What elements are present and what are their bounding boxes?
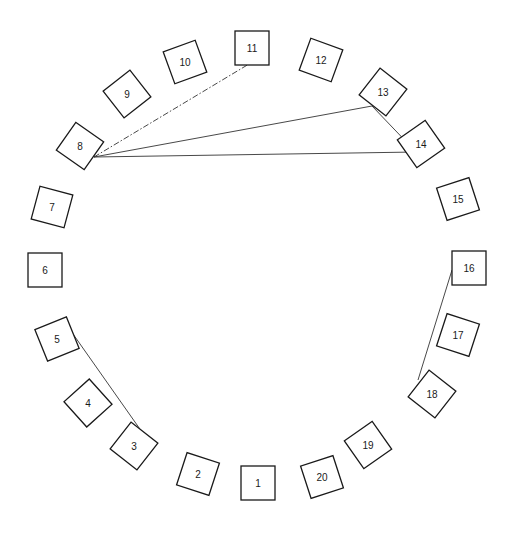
seat-box-10: 10 xyxy=(163,40,207,84)
seat-number-label: 13 xyxy=(377,87,389,98)
seat-box-19: 19 xyxy=(344,421,391,468)
seat-nodes: 1234567891011121314151617181920 xyxy=(28,31,486,500)
seat-box-15: 15 xyxy=(437,178,480,221)
seat-number-label: 9 xyxy=(124,89,130,100)
sociogram-diagram: 1234567891011121314151617181920 xyxy=(0,0,519,534)
seat-box-9: 9 xyxy=(103,70,151,118)
seat-box-7: 7 xyxy=(31,186,73,228)
seat-box-1: 1 xyxy=(241,466,275,500)
seat-number-label: 18 xyxy=(426,389,438,400)
seat-box-17: 17 xyxy=(437,314,480,357)
seat-number-label: 7 xyxy=(49,202,55,213)
seat-box-5: 5 xyxy=(35,317,79,361)
seat-number-label: 16 xyxy=(463,263,475,274)
seat-number-label: 12 xyxy=(315,55,327,66)
seat-box-3: 3 xyxy=(110,422,158,470)
seat-number-label: 15 xyxy=(452,194,464,205)
seat-box-11: 11 xyxy=(235,31,269,65)
seat-number-label: 1 xyxy=(255,478,261,489)
seat-number-label: 11 xyxy=(247,43,258,54)
seat-number-label: 2 xyxy=(195,469,201,480)
seat-number-label: 14 xyxy=(415,139,427,150)
seat-box-14: 14 xyxy=(397,120,444,167)
seat-number-label: 20 xyxy=(316,472,328,483)
seat-number-label: 8 xyxy=(77,141,83,152)
seat-number-label: 10 xyxy=(179,57,191,68)
seat-number-label: 4 xyxy=(85,398,91,409)
seat-box-20: 20 xyxy=(301,456,344,499)
seat-box-6: 6 xyxy=(28,253,62,287)
seat-number-label: 6 xyxy=(42,265,48,276)
seat-number-label: 17 xyxy=(452,330,464,341)
edge-8-to-14 xyxy=(94,152,416,157)
seat-number-label: 5 xyxy=(54,334,60,345)
seat-box-16: 16 xyxy=(452,251,486,285)
seat-number-label: 3 xyxy=(131,441,137,452)
seat-number-label: 19 xyxy=(362,440,374,451)
seat-box-2: 2 xyxy=(177,453,220,496)
connection-lines xyxy=(73,64,452,432)
seat-box-18: 18 xyxy=(408,370,456,418)
seat-box-13: 13 xyxy=(359,68,407,116)
seat-box-8: 8 xyxy=(56,122,103,169)
seat-box-12: 12 xyxy=(299,38,343,82)
seat-box-4: 4 xyxy=(64,379,112,427)
